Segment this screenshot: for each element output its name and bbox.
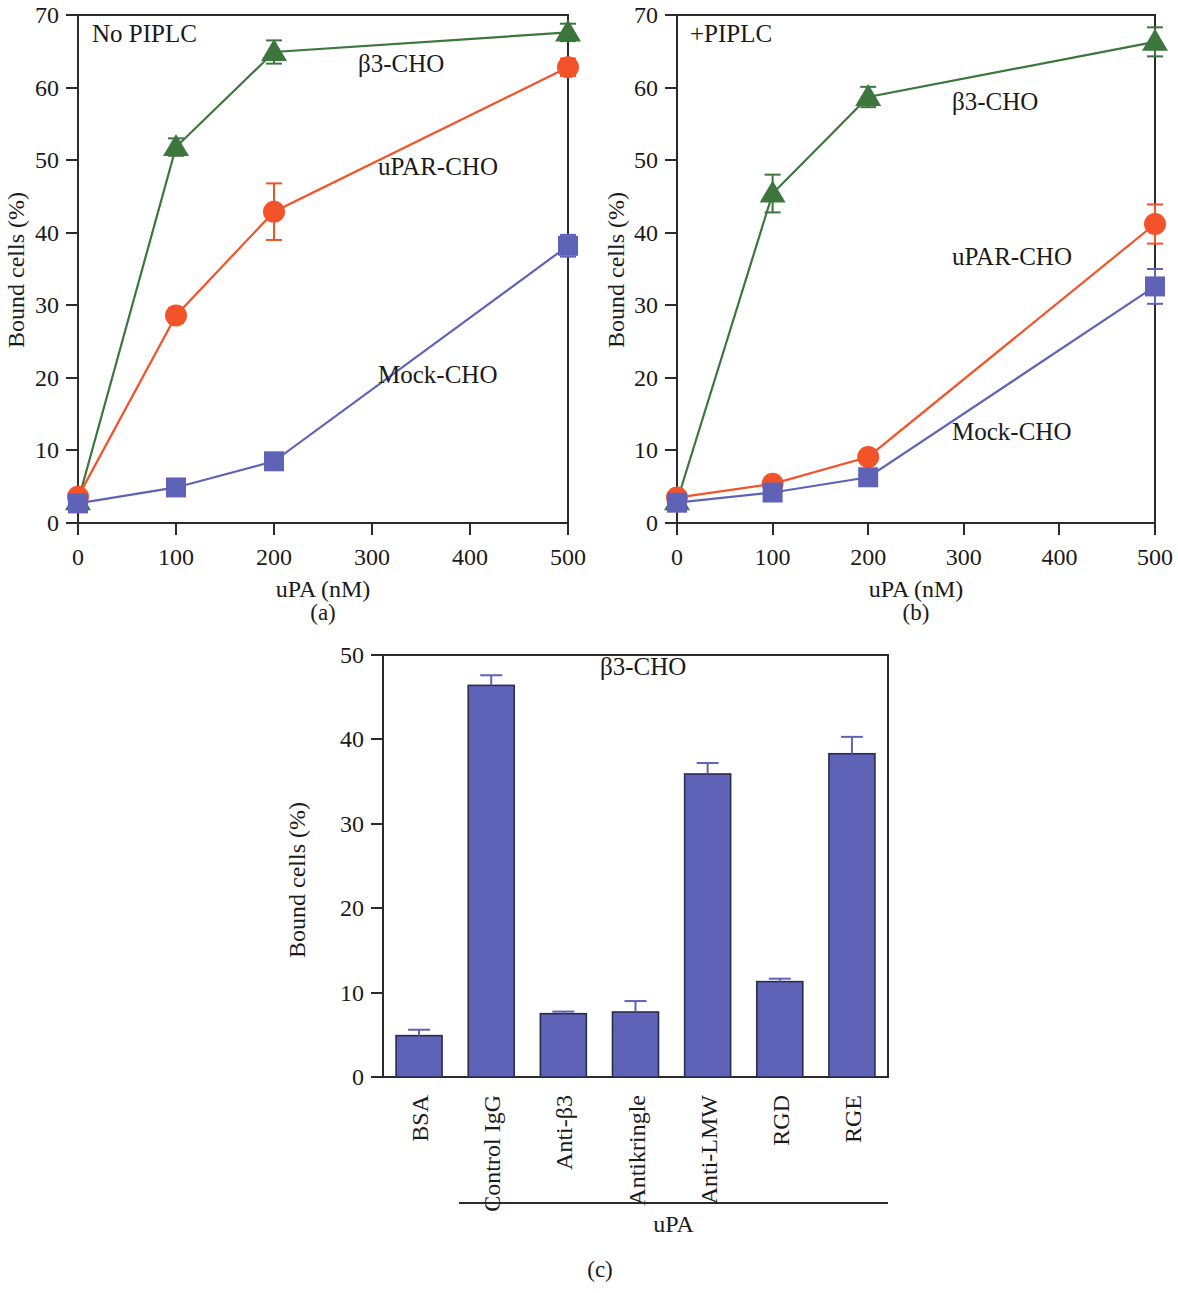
panel-a-axis-frame-top-right	[78, 15, 568, 523]
panel-a-series-label-upar: uPAR-CHO	[378, 153, 498, 180]
panel-a-series-label-mock: Mock-CHO	[378, 361, 497, 388]
panel-a-y-tick-label: 40	[35, 220, 59, 246]
panel-b-marker-square	[667, 493, 687, 513]
panel-b-marker-circle	[1144, 213, 1166, 235]
panel-c-note: β3-CHO	[600, 653, 686, 680]
panel-a-marker-circle	[263, 201, 285, 223]
panel-b-x-tick-label: 500	[1137, 544, 1173, 570]
panel-a-marker-triangle	[555, 19, 581, 41]
panel-b-y-tick-label: 50	[634, 147, 658, 173]
panel-c-y-tick-label: 20	[340, 895, 364, 921]
panel-a-chart: 0102030405060700100200300400500 No PIPLC…	[0, 0, 600, 620]
panel-b-series	[664, 27, 1168, 512]
panel-b-y-tick-label: 70	[634, 2, 658, 28]
panel-b-marker-square	[763, 483, 783, 503]
bar-rgd	[757, 982, 803, 1077]
bar-errorbar	[841, 737, 863, 754]
panel-c-y-tick-label: 40	[340, 726, 364, 752]
panel-a-line-circle	[78, 67, 568, 497]
panel-b-note: +PIPLC	[690, 20, 772, 47]
panel-b: 0102030405060700100200300400500 +PIPLC u…	[600, 0, 1178, 620]
bar-errorbar	[697, 763, 719, 774]
panel-b-line-triangle	[677, 42, 1155, 501]
panel-b-y-tick-label: 60	[634, 75, 658, 101]
panel-c-category-label: BSA	[407, 1094, 433, 1141]
panel-c-category-labels: BSAControl IgGAnti-β3AntikringleAnti-LMW…	[407, 1094, 866, 1211]
panel-b-y-tick-label: 20	[634, 365, 658, 391]
panel-a-x-tick-label: 500	[550, 544, 586, 570]
panel-a-series-label-beta3: β3-CHO	[358, 50, 444, 77]
panel-a-x-tick-label: 300	[354, 544, 390, 570]
panel-a-note: No PIPLC	[92, 20, 197, 47]
panel-b-x-tick-label: 400	[1041, 544, 1077, 570]
bar-errorbar	[408, 1030, 430, 1036]
panel-a-marker-square	[558, 236, 578, 256]
bar-anti-3	[540, 1014, 586, 1077]
panel-c: 01020304050 BSAControl IgGAnti-β3Antikri…	[270, 620, 930, 1293]
panel-b-series-label-beta3: β3-CHO	[952, 88, 1038, 115]
panel-a-marker-square	[166, 477, 186, 497]
panel-a-y-tick-label: 70	[35, 2, 59, 28]
panel-c-category-label: Antikringle	[624, 1095, 650, 1206]
panel-c-category-label: RGD	[768, 1095, 794, 1146]
panel-a-marker-square	[264, 451, 284, 471]
panel-c-y-axis-title: Bound cells (%)	[284, 802, 310, 958]
panel-a-y-tick-label: 30	[35, 292, 59, 318]
figure-root: 0102030405060700100200300400500 No PIPLC…	[0, 0, 1178, 1293]
panel-c-y-tick-label: 50	[340, 642, 364, 668]
panel-c-bars	[396, 675, 875, 1077]
panel-a-x-axis-title: uPA (nM)	[276, 576, 370, 602]
panel-a-axes: 0102030405060700100200300400500	[35, 2, 586, 570]
panel-c-category-label: Anti-β3	[551, 1095, 577, 1170]
bar-antikringle	[613, 1012, 659, 1077]
panel-a-marker-circle	[557, 56, 579, 78]
panel-b-x-tick-label: 0	[671, 544, 683, 570]
bar-bsa	[396, 1036, 442, 1077]
panel-b-chart: 0102030405060700100200300400500 +PIPLC u…	[600, 0, 1178, 620]
panel-c-chart: 01020304050 BSAControl IgGAnti-β3Antikri…	[270, 620, 930, 1293]
panel-b-y-tick-label: 30	[634, 292, 658, 318]
panel-b-x-tick-label: 100	[755, 544, 791, 570]
panel-a-y-tick-label: 60	[35, 75, 59, 101]
panel-b-y-tick-label: 40	[634, 220, 658, 246]
bar-errorbar	[480, 675, 502, 685]
panel-a-y-axis-title: Bound cells (%)	[3, 192, 29, 348]
panel-a-marker-circle	[165, 304, 187, 326]
panel-c-category-label: RGE	[840, 1095, 866, 1143]
panel-c-category-label: Control IgG	[479, 1095, 505, 1212]
panel-a-x-tick-label: 400	[452, 544, 488, 570]
panel-b-marker-square	[1145, 276, 1165, 296]
panel-b-y-tick-label: 0	[646, 510, 658, 536]
panel-a-y-tick-label: 10	[35, 437, 59, 463]
panel-a-y-tick-label: 20	[35, 365, 59, 391]
panel-b-x-tick-label: 300	[946, 544, 982, 570]
panel-b-line-square	[677, 286, 1155, 502]
bar-errorbar	[625, 1001, 647, 1012]
panel-c-y-tick-label: 30	[340, 811, 364, 837]
panel-b-series-label-upar: uPAR-CHO	[952, 243, 1072, 270]
panel-b-x-axis-title: uPA (nM)	[869, 576, 963, 602]
panel-b-line-circle	[677, 224, 1155, 498]
panel-b-marker-circle	[857, 446, 879, 468]
bar-anti-lmw	[685, 774, 731, 1077]
panel-a-series	[65, 19, 581, 513]
panel-b-axes: 0102030405060700100200300400500	[634, 2, 1173, 570]
panel-a-y-tick-label: 50	[35, 147, 59, 173]
panel-c-y-tick-label: 0	[352, 1064, 364, 1090]
panel-a-y-tick-label: 0	[47, 510, 59, 536]
panel-a-marker-square	[68, 493, 88, 513]
panel-a-x-tick-label: 100	[158, 544, 194, 570]
panel-c-category-label: Anti-LMW	[696, 1095, 722, 1205]
panel-a-x-tick-label: 0	[72, 544, 84, 570]
panel-b-y-tick-label: 10	[634, 437, 658, 463]
panel-b-marker-triangle	[1142, 29, 1168, 51]
panel-a-x-tick-label: 200	[256, 544, 292, 570]
panel-a-axis-frame	[78, 15, 568, 523]
panel-c-y-tick-label: 10	[340, 980, 364, 1006]
panel-a: 0102030405060700100200300400500 No PIPLC…	[0, 0, 600, 620]
panel-b-x-tick-label: 200	[850, 544, 886, 570]
bar-rge	[829, 754, 875, 1077]
bar-control-igg	[468, 685, 514, 1077]
panel-b-y-axis-title: Bound cells (%)	[603, 192, 629, 348]
panel-a-marker-triangle	[261, 39, 287, 61]
